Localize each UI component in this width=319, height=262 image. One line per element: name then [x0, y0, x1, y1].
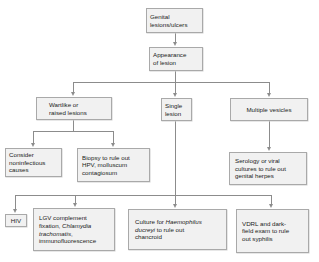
- node-text-line: Multiple vesicles: [246, 106, 291, 114]
- connector-wartlike-bar: [33, 131, 114, 132]
- connector-to-vdrl: [271, 195, 272, 204]
- node-biopsy: Biopsy to rule out HPV, molluscum contag…: [77, 148, 150, 182]
- connector-single-down: [175, 121, 176, 204]
- node-text-line: fixation, Chlamydia: [39, 222, 111, 230]
- connector-to-hiv: [15, 195, 16, 210]
- node-text-italic: Chlamydia: [62, 222, 91, 229]
- node-text-line: contagiosum: [82, 169, 146, 177]
- node-text-line: cultures to rule out: [235, 165, 303, 173]
- node-text-line: Consider: [9, 151, 58, 159]
- arrow-head-icon: [71, 92, 75, 96]
- connector-to-biopsy: [113, 131, 114, 143]
- node-text-line: Wartlike or: [49, 101, 108, 109]
- node-text-plain: to rule out: [155, 226, 184, 233]
- node-hiv: HIV: [5, 214, 27, 227]
- arrow-head-icon: [267, 147, 271, 151]
- arrow-head-icon: [269, 204, 273, 208]
- node-text-line: LGV complement: [39, 214, 111, 222]
- arrow-head-icon: [173, 204, 177, 208]
- node-text-italic: trachomatis: [39, 230, 71, 237]
- node-wartlike-lesions: Wartlike or raised lesions: [36, 97, 112, 120]
- node-culture: Culture for Haemophilus ducreyi to rule …: [128, 209, 227, 250]
- node-text-italic: Haemophilus: [166, 218, 202, 225]
- node-text-line: out syphilis: [242, 235, 305, 243]
- node-text-line: Genital: [150, 13, 199, 21]
- node-genital-lesions: Genital lesions/ulcers: [146, 8, 203, 33]
- arrow-head-icon: [13, 209, 17, 213]
- arrow-head-icon: [111, 143, 115, 147]
- node-text-line: Biopsy to rule out: [82, 154, 146, 162]
- node-text-italic: ducreyi: [135, 226, 155, 233]
- node-text-line: noninfectious: [9, 159, 58, 167]
- connector-lower-bar: [15, 195, 272, 196]
- node-text-line: Serology or viral: [235, 157, 303, 165]
- node-consider-noninfectious: Consider noninfectious causes: [5, 148, 62, 177]
- node-appearance-of-lesion: Appearance of lesion: [149, 47, 203, 71]
- node-text-line: genital herpes: [235, 172, 303, 180]
- node-multiple-vesicles: Multiple vesicles: [230, 98, 308, 121]
- node-single-lesion: Single lesion: [161, 98, 192, 121]
- node-text-plain: ,: [71, 230, 73, 237]
- node-text-line: Culture for Haemophilus: [135, 218, 223, 226]
- node-text-line: of lesion: [153, 59, 199, 67]
- node-text-plain: Culture for: [135, 218, 166, 225]
- arrow-head-icon: [173, 93, 177, 97]
- node-text-line: raised lesions: [49, 109, 108, 117]
- node-vdrl: VDRL and dark- field exam to rule out sy…: [236, 209, 309, 253]
- node-text-line: lesion: [165, 110, 188, 118]
- node-text-line: Single: [165, 102, 188, 110]
- connector-multiple-serology: [269, 121, 270, 147]
- node-serology: Serology or viral cultures to rule out g…: [229, 152, 307, 185]
- connector-top-bar: [73, 82, 270, 83]
- arrow-head-icon: [267, 93, 271, 97]
- node-text-line: HIV: [11, 217, 21, 225]
- node-text-line: field exam to rule: [242, 227, 305, 235]
- node-text-line: HPV, molluscum: [82, 161, 146, 169]
- node-text-line: lesions/ulcers: [150, 21, 199, 29]
- arrow-head-icon: [173, 42, 177, 46]
- node-text-line: chancroid: [135, 233, 223, 241]
- node-text-line: VDRL and dark-: [242, 220, 305, 228]
- node-text-line: trachomatis,: [39, 230, 111, 238]
- connector-to-noninfectious: [33, 131, 34, 143]
- arrow-head-icon: [31, 143, 35, 147]
- node-text-line: causes: [9, 166, 58, 174]
- node-text-line: Appearance: [153, 51, 199, 59]
- node-text-line: immunofluorescence: [39, 237, 111, 245]
- node-text-plain: fixation,: [39, 222, 62, 229]
- arrow-head-icon: [73, 203, 77, 207]
- node-text-line: ducreyi to rule out: [135, 226, 223, 234]
- node-lgv: LGV complement fixation, Chlamydia trach…: [33, 208, 115, 251]
